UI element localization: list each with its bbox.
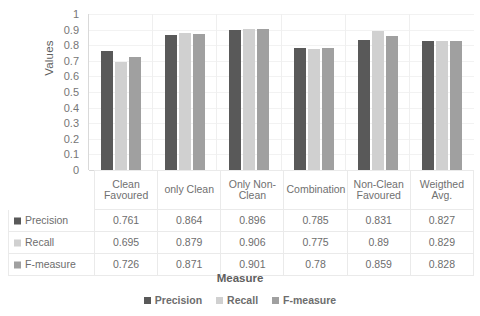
- table-cell: 0.89: [347, 232, 410, 254]
- bar-group: [346, 14, 410, 170]
- x-axis-title: Measure: [0, 272, 480, 284]
- y-axis-tick-label: 0.1: [64, 149, 79, 160]
- bar: [358, 40, 370, 170]
- y-axis-tick-label: 1: [73, 9, 79, 20]
- bar: [308, 49, 320, 170]
- table-cell: 0.775: [284, 232, 347, 254]
- series-color-swatch-icon: [14, 261, 21, 268]
- bar: [101, 51, 113, 170]
- y-axis-tick-label: 0.7: [64, 55, 79, 66]
- bar-group: [410, 14, 474, 170]
- legend-color-swatch-icon: [216, 297, 223, 304]
- legend-item[interactable]: Recall: [216, 294, 258, 306]
- y-axis-tick-label: 0.2: [64, 133, 79, 144]
- table-cell: 0.864: [158, 210, 221, 232]
- plot-canvas: [88, 14, 474, 170]
- bar: [436, 41, 448, 170]
- legend-item[interactable]: F-measure: [272, 294, 336, 306]
- table-cell: 0.761: [95, 210, 158, 232]
- table-header-row: Clean Favouredonly CleanOnly Non-CleanCo…: [9, 171, 474, 210]
- table-row: Recall0.6950.8790.9060.7750.890.829: [9, 232, 474, 254]
- y-axis-tick-label: 0.8: [64, 40, 79, 51]
- y-axis-tick-label: 0.4: [64, 102, 79, 113]
- bar: [229, 30, 241, 170]
- bar: [372, 31, 384, 170]
- y-axis-tick-labels: 10.90.80.70.60.50.40.30.20.10: [56, 14, 82, 170]
- bar: [294, 48, 306, 170]
- table-cell: 0.695: [95, 232, 158, 254]
- legend-label: Precision: [155, 294, 202, 306]
- legend-label: Recall: [227, 294, 258, 306]
- table-cell: 0.879: [158, 232, 221, 254]
- legend-label: F-measure: [283, 294, 336, 306]
- table-cell: 0.785: [284, 210, 347, 232]
- bar: [257, 29, 269, 170]
- bar-group: [217, 14, 281, 170]
- y-axis-tick-label: 0.6: [64, 71, 79, 82]
- table-column-header: Weigthed Avg.: [410, 171, 473, 210]
- table-row-header: Recall: [9, 232, 95, 254]
- table-column-header: Clean Favoured: [95, 171, 158, 210]
- bar: [243, 29, 255, 170]
- bar-series-layer: [89, 14, 474, 170]
- bar: [129, 57, 141, 170]
- series-color-swatch-icon: [14, 239, 21, 246]
- legend-color-swatch-icon: [144, 297, 151, 304]
- y-axis-tick-label: 0.3: [64, 118, 79, 129]
- y-axis-tick-label: 0.5: [64, 87, 79, 98]
- bar: [165, 35, 177, 170]
- bar-group: [89, 14, 153, 170]
- bar-group: [153, 14, 217, 170]
- table-cell: 0.827: [410, 210, 473, 232]
- table-cell: 0.896: [221, 210, 284, 232]
- y-axis-tick-label: 0.9: [64, 24, 79, 35]
- legend-color-swatch-icon: [272, 297, 279, 304]
- chart-legend: PrecisionRecallF-measure: [0, 294, 480, 306]
- bar: [386, 36, 398, 170]
- series-color-swatch-icon: [14, 217, 21, 224]
- table-column-header: Non-Clean Favoured: [347, 171, 410, 210]
- table-cell: 0.906: [221, 232, 284, 254]
- plot-area: 10.90.80.70.60.50.40.30.20.10: [56, 14, 474, 170]
- bar: [193, 34, 205, 170]
- table-row: Precision0.7610.8640.8960.7850.8310.827: [9, 210, 474, 232]
- bar-chart-with-data-table: Values 10.90.80.70.60.50.40.30.20.10 Cle…: [0, 0, 480, 316]
- table-row-header: Precision: [9, 210, 95, 232]
- bar: [422, 41, 434, 170]
- chart-data-table: Clean Favouredonly CleanOnly Non-CleanCo…: [8, 170, 474, 276]
- bar: [450, 41, 462, 170]
- bar: [115, 62, 127, 170]
- bar: [179, 33, 191, 170]
- table-cell: 0.831: [347, 210, 410, 232]
- bar-group: [282, 14, 346, 170]
- table-column-header: only Clean: [158, 171, 221, 210]
- legend-item[interactable]: Precision: [144, 294, 202, 306]
- bar: [322, 48, 334, 170]
- table-corner-cell: [9, 171, 95, 210]
- table-cell: 0.829: [410, 232, 473, 254]
- table-column-header: Only Non-Clean: [221, 171, 284, 210]
- table-column-header: Combination: [284, 171, 347, 210]
